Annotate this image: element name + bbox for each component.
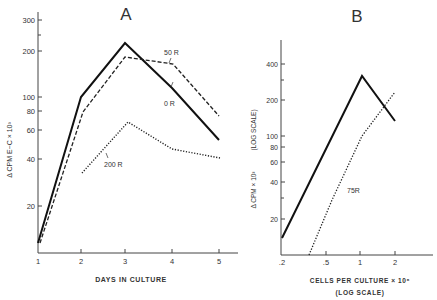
svg-text:.2: .2 (279, 258, 285, 267)
chart-a-label-200r: 200 R (104, 161, 123, 168)
chart-a-series-200r (82, 122, 220, 173)
svg-text:3: 3 (123, 257, 127, 266)
chart-a-leader-200r (106, 153, 108, 158)
chart-b-label-75r: 75R (347, 187, 360, 194)
chart-a-x-ticks (81, 249, 219, 253)
svg-text:20: 20 (270, 216, 278, 223)
chart-a-label-0r: 0 R (164, 100, 175, 107)
chart-a-leader-0r (171, 82, 173, 87)
chart-b-y-tick-labels: 400 200 100 80 60 40 20 (266, 61, 278, 223)
chart-a-series-0r (38, 43, 219, 243)
svg-text:100: 100 (266, 133, 278, 140)
chart-b: B 400 200 100 80 60 40 20 (250, 7, 433, 297)
chart-b-series-75r (309, 92, 395, 255)
svg-text:4: 4 (170, 257, 174, 266)
svg-text:20: 20 (27, 202, 35, 211)
svg-text:1: 1 (358, 258, 362, 267)
chart-b-y-label-scale: (LOG SCALE) (250, 109, 258, 150)
svg-text:200: 200 (22, 47, 35, 56)
svg-text:200: 200 (266, 97, 278, 104)
chart-a-y-ticks (38, 20, 42, 206)
svg-text:60: 60 (270, 159, 278, 166)
chart-a-y-label: Δ CPM E−C × 10³ (6, 122, 13, 178)
chart-a-label-50r: 50 R (164, 49, 179, 56)
chart-b-x-label: CELLS PER CULTURE × 10⁶ (310, 277, 410, 284)
svg-text:80: 80 (270, 144, 278, 151)
chart-b-y-ticks (281, 64, 285, 219)
chart-b-x-ticks (326, 251, 395, 255)
svg-text:1: 1 (36, 257, 40, 266)
svg-text:60: 60 (27, 126, 35, 135)
chart-b-series-0r (282, 76, 395, 238)
svg-text:2: 2 (393, 258, 397, 267)
chart-b-x-tick-labels: .2 .5 1 2 (279, 258, 397, 267)
svg-text:300: 300 (22, 16, 35, 25)
svg-text:40: 40 (270, 179, 278, 186)
svg-text:40: 40 (27, 155, 35, 164)
chart-b-y-label: Δ CPM × 10³ (250, 171, 257, 209)
chart-b-title: B (351, 7, 362, 26)
svg-text:100: 100 (22, 93, 35, 102)
chart-a-x-tick-labels: 1 2 3 4 5 (36, 257, 221, 266)
svg-text:.5: .5 (323, 258, 329, 267)
svg-text:80: 80 (27, 107, 35, 116)
chart-a-x-label: DAYS IN CULTURE (95, 276, 167, 283)
svg-text:5: 5 (217, 257, 221, 266)
chart-a-series-50r (40, 57, 219, 243)
svg-text:2: 2 (79, 257, 83, 266)
chart-b-x-label-scale: (LOG SCALE) (336, 289, 385, 297)
chart-a: A 300 200 100 80 60 40 20 (6, 5, 238, 283)
chart-a-leader-50r (169, 58, 171, 63)
figure: A 300 200 100 80 60 40 20 (0, 0, 437, 300)
chart-a-title: A (120, 5, 132, 24)
chart-a-y-tick-labels: 300 200 100 80 60 40 20 (22, 16, 35, 211)
svg-text:400: 400 (266, 61, 278, 68)
